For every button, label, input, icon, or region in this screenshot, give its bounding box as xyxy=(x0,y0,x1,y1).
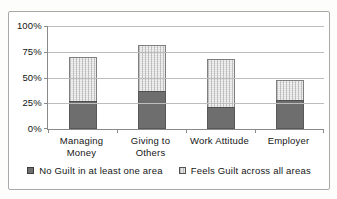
x-tick-mark xyxy=(117,129,118,133)
category-label-text: Giving to Others xyxy=(118,135,184,158)
legend-label: No Guilt in at least one area xyxy=(39,165,163,176)
y-tick-label: 100% xyxy=(17,21,42,31)
dark-series-swatch-icon xyxy=(27,167,34,174)
gridline xyxy=(48,26,324,27)
segment-feels-guilt xyxy=(69,57,97,101)
y-tick-label: 25% xyxy=(22,98,42,108)
segment-feels-guilt xyxy=(207,59,235,107)
segment-feels-guilt xyxy=(276,80,304,101)
legend-entry-no-guilt: No Guilt in at least one area xyxy=(27,165,163,176)
stacked-bar-4 xyxy=(276,80,304,129)
category-label: Employer xyxy=(254,135,323,158)
segment-no-guilt xyxy=(138,91,166,129)
y-tick-mark xyxy=(44,78,48,79)
segment-no-guilt xyxy=(276,100,304,129)
category-label: Managing Money xyxy=(47,135,116,158)
x-axis-labels: Managing MoneyGiving to OthersWork Attit… xyxy=(47,135,323,158)
category-label-text: Managing Money xyxy=(49,135,115,158)
gridline xyxy=(48,103,324,104)
x-tick-mark xyxy=(255,129,256,133)
y-tick-label: 75% xyxy=(22,47,42,57)
legend-label: Feels Guilt across all areas xyxy=(191,165,311,176)
y-tick-label: 50% xyxy=(22,73,42,83)
x-tick-mark xyxy=(186,129,187,133)
legend-entry-feels-guilt: Feels Guilt across all areas xyxy=(179,165,311,176)
x-tick-mark xyxy=(323,129,324,133)
stacked-bar-1 xyxy=(69,57,97,129)
category-label: Giving to Others xyxy=(116,135,185,158)
y-tick-label: 0% xyxy=(28,124,42,134)
x-tick-mark xyxy=(48,129,49,133)
gridline xyxy=(48,78,324,79)
legend: No Guilt in at least one area Feels Guil… xyxy=(9,165,329,176)
gridline xyxy=(48,52,324,53)
stacked-bar-2 xyxy=(138,45,166,129)
y-tick-mark xyxy=(44,26,48,27)
plot-area xyxy=(47,26,324,130)
segment-no-guilt xyxy=(69,101,97,129)
category-label-text: Employer xyxy=(256,135,322,158)
y-tick-mark xyxy=(44,103,48,104)
category-label-text: Work Attitude xyxy=(187,135,253,158)
stacked-bar-3 xyxy=(207,59,235,129)
y-axis-labels: 0%25%50%75%100% xyxy=(9,26,42,129)
category-label: Work Attitude xyxy=(185,135,254,158)
segment-no-guilt xyxy=(207,107,235,129)
y-tick-mark xyxy=(44,52,48,53)
chart-frame: 0%25%50%75%100% Managing MoneyGiving to … xyxy=(8,11,330,190)
light-series-swatch-icon xyxy=(179,167,186,174)
